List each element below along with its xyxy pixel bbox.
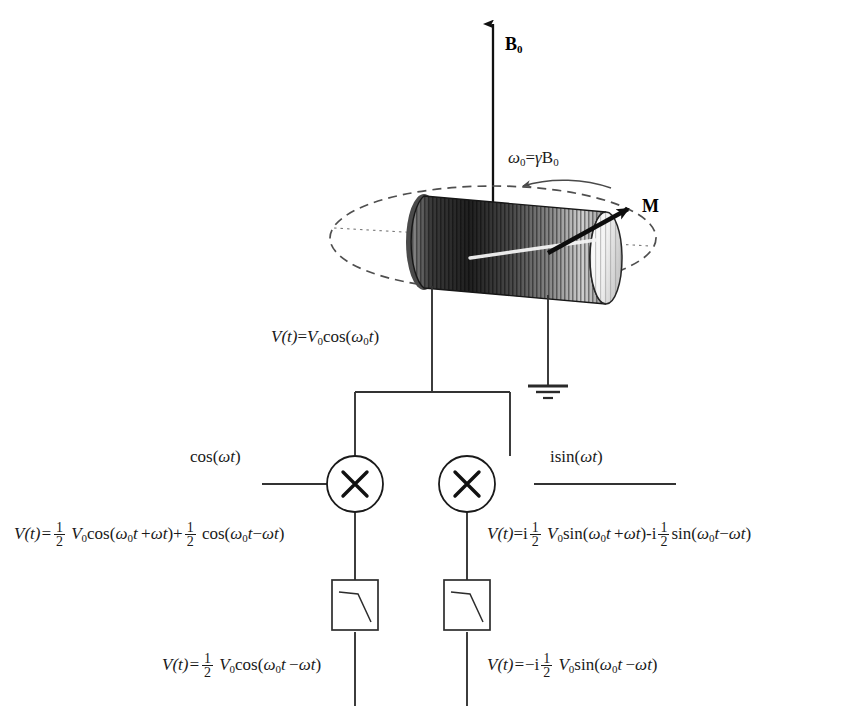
mixer-left-output-equation: V(t)=12 V0cos(ω0t +ωt)+12 cos(ω0t−ωt) <box>14 522 284 549</box>
fraction-one-half: 12 <box>202 653 213 680</box>
filter-right[interactable] <box>444 580 490 630</box>
diagram-canvas: B0 ω0=γB0 M V(t)=V0cos(ω0t) cos(ωt) isin… <box>0 0 852 715</box>
fraction-one-half: 12 <box>530 522 541 549</box>
coil-output-equation: V(t)=V0cos(ω0t) <box>271 328 379 347</box>
b0-label: B0 <box>505 34 523 55</box>
sample-coil <box>406 185 626 310</box>
fraction-one-half: 12 <box>658 522 669 549</box>
filter-left-output-equation: V(t)=12 V0cos(ω0t −ωt) <box>162 653 321 680</box>
diagram-artwork <box>0 0 852 715</box>
fraction-one-half: 12 <box>54 522 65 549</box>
ground-symbol <box>528 386 568 398</box>
filter-right-output-equation: V(t)=−i12 V0sin(ω0t −ωt) <box>487 653 658 680</box>
mixer-right[interactable] <box>439 456 495 512</box>
reference-cos-label: cos(ωt) <box>190 448 241 465</box>
reference-isin-label: isin(ωt) <box>550 448 603 465</box>
mixer-right-output-equation: V(t)=i12 V0sin(ω0t +ωt)-i12sin(ω0t−ωt) <box>487 522 751 549</box>
precession-direction-arrow <box>523 180 611 188</box>
fraction-one-half: 12 <box>185 522 196 549</box>
mixer-left[interactable] <box>327 456 383 512</box>
magnetization-label: M <box>642 196 659 217</box>
larmor-frequency-label: ω0=γB0 <box>508 148 559 168</box>
filter-left[interactable] <box>332 580 378 630</box>
fraction-one-half: 12 <box>541 653 552 680</box>
